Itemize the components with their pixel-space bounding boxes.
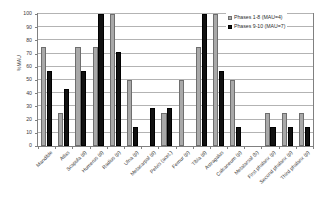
y-tick-mark <box>35 40 37 41</box>
y-tick-mark <box>35 54 37 55</box>
y-tick-mark <box>35 67 37 68</box>
y-tick-mark <box>35 133 37 134</box>
bar[interactable] <box>98 14 103 146</box>
x-tick-mark <box>141 147 142 149</box>
bar[interactable] <box>133 127 138 146</box>
bar[interactable] <box>299 113 304 146</box>
bar[interactable] <box>116 52 121 146</box>
bar[interactable] <box>93 47 98 146</box>
bar-group <box>72 14 89 146</box>
chart-legend: Phases 1-8 (MAU=4)Phases 9-10 (MAU=7) <box>226 11 287 33</box>
y-tick-label: 30 <box>16 104 32 109</box>
bar[interactable] <box>161 113 166 146</box>
bar-group <box>124 14 141 146</box>
bars-layer <box>38 14 313 146</box>
x-tick-mark <box>279 147 280 149</box>
bar[interactable] <box>305 127 310 146</box>
x-tick-mark <box>261 147 262 149</box>
y-tick-mark <box>35 120 37 121</box>
x-tick-mark <box>107 147 108 149</box>
bar[interactable] <box>75 47 80 146</box>
x-tick-mark <box>176 147 177 149</box>
x-tick-mark <box>244 147 245 149</box>
y-tick-label: 70 <box>16 51 32 56</box>
y-tick-mark <box>35 106 37 107</box>
y-tick-label: 60 <box>16 64 32 69</box>
x-tick-mark <box>90 147 91 149</box>
bar-group <box>193 14 210 146</box>
x-tick-mark <box>210 147 211 149</box>
bar[interactable] <box>270 127 275 146</box>
legend-item[interactable]: Phases 9-10 (MAU=7) <box>228 22 285 31</box>
legend-item[interactable]: Phases 1-8 (MAU=4) <box>228 13 285 22</box>
bar-chart: %MAU 0102030405060708090100 MandibleAtla… <box>0 0 327 208</box>
bar[interactable] <box>41 47 46 146</box>
bar-group <box>107 14 124 146</box>
legend-swatch-icon <box>228 25 232 29</box>
bar[interactable] <box>196 47 201 146</box>
x-tick-mark <box>72 147 73 149</box>
bar-group <box>176 14 193 146</box>
y-tick-mark <box>35 27 37 28</box>
bar[interactable] <box>47 71 52 146</box>
y-tick-mark <box>35 146 37 147</box>
y-tick-label: 20 <box>16 117 32 122</box>
bar[interactable] <box>265 113 270 146</box>
bar[interactable] <box>179 80 184 146</box>
bar[interactable] <box>167 108 172 146</box>
y-tick-label: 80 <box>16 38 32 43</box>
bar[interactable] <box>110 14 115 146</box>
bar-group <box>38 14 55 146</box>
x-tick-mark <box>313 147 314 149</box>
y-tick-label: 50 <box>16 77 32 82</box>
x-tick-mark <box>193 147 194 149</box>
bar-group <box>227 14 244 146</box>
y-tick-label: 90 <box>16 25 32 30</box>
bar[interactable] <box>282 113 287 146</box>
bar[interactable] <box>81 71 86 146</box>
bar[interactable] <box>202 14 207 146</box>
bar-group <box>158 14 175 146</box>
bar-group <box>244 14 261 146</box>
bar[interactable] <box>127 80 132 146</box>
bar[interactable] <box>219 71 224 146</box>
bar-group <box>141 14 158 146</box>
legend-label: Phases 1-8 (MAU=4) <box>234 15 283 20</box>
bar[interactable] <box>288 127 293 146</box>
legend-label: Phases 9-10 (MAU=7) <box>234 24 285 29</box>
bar-group <box>279 14 296 146</box>
bar-group <box>90 14 107 146</box>
bar[interactable] <box>230 80 235 146</box>
y-tick-mark <box>35 14 37 15</box>
x-tick-mark <box>227 147 228 149</box>
y-tick-label: 0 <box>16 143 32 148</box>
x-tick-mark <box>124 147 125 149</box>
bar-group <box>296 14 313 146</box>
y-tick-mark <box>35 80 37 81</box>
bar[interactable] <box>150 108 155 146</box>
y-tick-label: 10 <box>16 130 32 135</box>
legend-swatch-icon <box>228 16 232 20</box>
x-tick-mark <box>158 147 159 149</box>
bar[interactable] <box>213 14 218 146</box>
y-tick-label: 100 <box>16 11 32 16</box>
bar[interactable] <box>64 89 69 146</box>
y-tick-mark <box>35 93 37 94</box>
bar-group <box>210 14 227 146</box>
bar-group <box>261 14 278 146</box>
x-tick-mark <box>38 147 39 149</box>
bar[interactable] <box>58 113 63 146</box>
y-tick-label: 40 <box>16 91 32 96</box>
bar[interactable] <box>236 127 241 146</box>
bar-group <box>55 14 72 146</box>
x-tick-mark <box>296 147 297 149</box>
x-tick-mark <box>55 147 56 149</box>
